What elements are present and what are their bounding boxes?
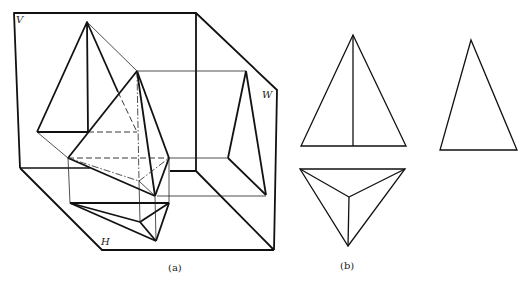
side-view bbox=[440, 40, 517, 150]
top-view bbox=[300, 169, 405, 246]
h-proj-edge bbox=[156, 203, 169, 241]
h-proj-inner bbox=[140, 203, 169, 222]
pyramid-edge bbox=[137, 71, 169, 158]
hw-axis bbox=[196, 171, 274, 250]
side-view-triangle bbox=[440, 40, 517, 150]
h-proj-edge bbox=[70, 203, 156, 241]
pyramid-base-edge bbox=[68, 158, 155, 196]
v-proj-right-edge bbox=[87, 22, 118, 92]
pyramid-3d bbox=[68, 71, 169, 196]
top-view-edge bbox=[349, 169, 405, 197]
v-plane-label: V bbox=[16, 14, 25, 25]
caption-b: (b) bbox=[340, 260, 354, 271]
v-proj-hidden-edge bbox=[118, 92, 137, 132]
v-plane-outline bbox=[14, 13, 196, 171]
top-view-triangle bbox=[300, 169, 405, 246]
caption-a: (a) bbox=[168, 262, 182, 273]
pyramid-edge bbox=[137, 71, 155, 196]
projection-diagram: V H W (a) (b) bbox=[0, 0, 527, 283]
h-plane-label: H bbox=[100, 236, 110, 247]
w-proj-edge bbox=[228, 71, 246, 158]
w-plane-outline bbox=[196, 13, 277, 250]
projector-line bbox=[87, 22, 137, 71]
front-view bbox=[301, 35, 406, 146]
top-view-edge bbox=[300, 169, 349, 197]
top-view-edge bbox=[348, 197, 349, 246]
projector-line bbox=[139, 181, 140, 222]
pyramid-edge bbox=[68, 71, 137, 158]
projector-line bbox=[68, 158, 70, 203]
h-projection bbox=[68, 158, 169, 241]
pyramid-hidden bbox=[68, 158, 139, 181]
v-proj-left-face bbox=[37, 22, 88, 132]
projector-line bbox=[37, 132, 68, 158]
w-plane-label: W bbox=[262, 89, 273, 100]
